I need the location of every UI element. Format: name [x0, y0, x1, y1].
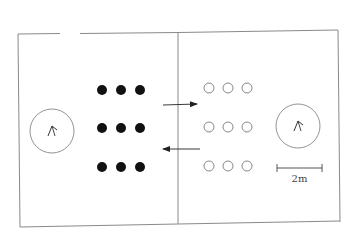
right-marker-circle — [276, 104, 320, 148]
filled-player-dot — [116, 123, 126, 133]
hollow-player-dot — [204, 122, 214, 132]
hollow-player-dot — [223, 161, 233, 171]
hollow-player-dot — [223, 83, 233, 93]
filled-player-dot — [97, 85, 107, 95]
left-marker-circle — [30, 109, 74, 153]
scale-label: 2m — [292, 173, 308, 184]
hollow-player-dot — [242, 161, 252, 171]
field-frame — [18, 30, 340, 227]
filled-player-dot — [116, 162, 126, 172]
hollow-player-dot — [204, 83, 214, 93]
right-team-players — [204, 83, 252, 171]
field-diagram: 2m — [0, 0, 359, 240]
hollow-player-dot — [242, 122, 252, 132]
filled-player-dot — [135, 123, 145, 133]
filled-player-dot — [116, 85, 126, 95]
arrow-right-icon — [163, 104, 197, 105]
exchange-arrows — [163, 104, 200, 149]
hollow-player-dot — [204, 161, 214, 171]
hollow-player-dot — [223, 122, 233, 132]
filled-player-dot — [97, 162, 107, 172]
hollow-player-dot — [242, 83, 252, 93]
left-team-players — [97, 85, 145, 172]
filled-player-dot — [135, 162, 145, 172]
filled-player-dot — [135, 85, 145, 95]
scale-bar: 2m — [277, 164, 322, 184]
filled-player-dot — [97, 123, 107, 133]
